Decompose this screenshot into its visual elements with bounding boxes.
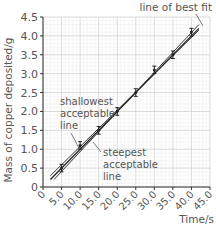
data-point	[116, 110, 119, 113]
steepest-label: acceptable	[103, 159, 158, 170]
best-fit-label: line of best fit	[139, 1, 212, 13]
data-point	[171, 53, 174, 56]
x-axis-label: Time/s	[178, 213, 214, 225]
y-tick-label: 2.0	[21, 105, 39, 118]
shallowest-label: line	[60, 120, 78, 131]
chart: 00.51.01.52.02.53.03.54.04.505.010.015.0…	[0, 0, 216, 229]
x-tick-label: 45.0	[191, 189, 215, 213]
x-tick-label: 30.0	[135, 189, 159, 213]
data-point	[190, 31, 193, 34]
y-tick-label: 2.5	[21, 87, 39, 100]
data-point	[97, 129, 100, 132]
steepest-leader	[93, 142, 101, 152]
y-tick-label: 4.0	[21, 30, 39, 43]
x-tick-label: 25.0	[117, 189, 141, 213]
data-point	[153, 68, 156, 71]
steepest-label: line	[103, 171, 121, 182]
x-tick-label: 35.0	[154, 189, 178, 213]
data-point	[60, 167, 63, 170]
y-axis-label: Mass of copper deposited/g	[2, 38, 14, 183]
y-tick-label: 4.5	[21, 11, 39, 24]
steepest-label: steepest	[103, 147, 146, 158]
y-tick-label: 1.0	[21, 143, 39, 156]
y-tick-label: 0.5	[21, 162, 39, 175]
data-point	[79, 144, 82, 147]
x-tick-label: 0	[35, 189, 47, 201]
shallowest-label: acceptable	[60, 108, 115, 119]
y-tick-label: 3.0	[21, 68, 39, 81]
x-tick-label: 20.0	[98, 189, 122, 213]
y-tick-label: 3.5	[21, 49, 39, 62]
x-tick-label: 40.0	[172, 189, 196, 213]
y-tick-label: 1.5	[21, 124, 39, 137]
x-tick-label: 10.0	[61, 189, 85, 213]
best-fit-leader	[196, 14, 203, 26]
x-tick-label: 15.0	[80, 189, 104, 213]
data-point	[134, 91, 137, 94]
shallowest-label: shallowest	[60, 96, 113, 107]
